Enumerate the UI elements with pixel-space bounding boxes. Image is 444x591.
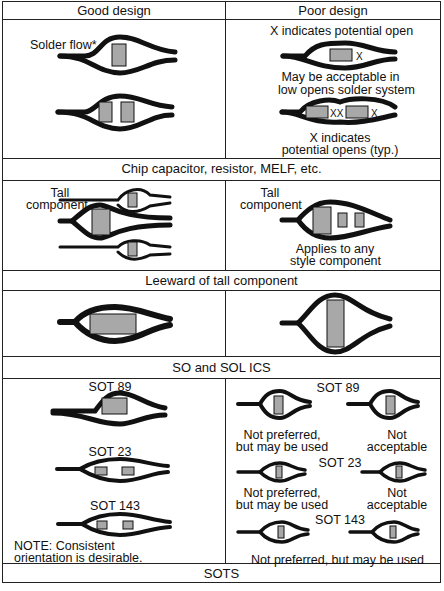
poor-sot89-preferred-drawing	[238, 391, 310, 418]
good-sot89-drawing	[53, 393, 165, 424]
svg-text:XX: XX	[330, 108, 344, 119]
good-so-ic-drawing	[60, 307, 170, 341]
poor-so-ic-drawing	[282, 295, 390, 352]
poor-double-chip-drawing: XX X	[282, 99, 395, 123]
poor-sot143-left-drawing	[238, 522, 308, 542]
good-double-chip-drawing	[58, 96, 172, 129]
poor-single-chip-drawing: X	[283, 43, 395, 68]
poor-sot143-right-drawing	[350, 522, 418, 542]
svg-text:X: X	[356, 51, 363, 62]
good-tall-component-drawing	[60, 190, 170, 260]
poor-sot23-preferred-drawing	[238, 463, 305, 481]
poor-sot23-unacceptable-drawing	[362, 463, 425, 481]
poor-tall-component-drawing	[282, 202, 390, 238]
good-sot143-drawing	[58, 514, 170, 535]
solder-flow-drawings: X XX X	[0, 0, 444, 591]
good-single-chip-drawing	[60, 37, 175, 73]
svg-text:X: X	[371, 108, 378, 119]
good-sot23-drawing	[57, 459, 168, 481]
poor-sot89-unacceptable-drawing	[348, 391, 418, 418]
